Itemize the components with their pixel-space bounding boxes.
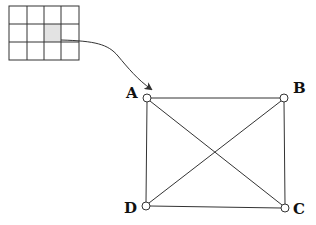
grid <box>9 6 79 60</box>
node-b <box>280 94 288 102</box>
highlighted-cell <box>44 24 61 42</box>
node-a <box>143 94 151 102</box>
node-c <box>281 204 289 212</box>
edge-a-c <box>150 101 282 205</box>
node-b-label: B <box>293 79 306 97</box>
node-d-label: D <box>124 199 137 217</box>
node-d <box>142 202 150 210</box>
node-a-label: A <box>125 84 138 102</box>
edge-d-a <box>146 102 147 202</box>
edge-c-d <box>150 206 281 208</box>
diagram-canvas: A B C D <box>0 0 316 225</box>
graph-edges <box>146 98 285 208</box>
edge-b-c <box>284 102 285 204</box>
mapping-arrow <box>61 40 151 89</box>
node-c-label: C <box>293 200 305 218</box>
